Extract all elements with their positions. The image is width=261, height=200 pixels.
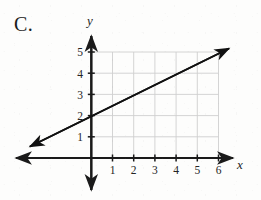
y-tick-label: 1	[77, 131, 83, 143]
x-tick-label: 3	[152, 164, 158, 176]
vertical-gridlines	[113, 52, 219, 158]
x-tick-label: 2	[131, 164, 137, 176]
y-tick-label: 3	[77, 89, 83, 101]
x-axis-label: x	[236, 157, 243, 172]
x-tick-label: 4	[173, 164, 179, 176]
y-tick-label: 4	[77, 68, 83, 80]
x-axis-tick-labels: 1 2 3 4 5 6	[110, 164, 222, 176]
x-tick-label: 6	[216, 164, 222, 176]
y-axis-tick-labels: 5 4 3 2 1	[77, 46, 83, 143]
y-axis-label: y	[85, 13, 93, 28]
graph-figure: C.	[0, 0, 261, 200]
plotted-line	[30, 49, 229, 147]
x-tick-label: 1	[110, 164, 116, 176]
coordinate-plane-svg: 1 2 3 4 5 6 5 4 3 2 1 x y	[0, 0, 261, 200]
x-tick-label: 5	[194, 164, 200, 176]
y-tick-label: 5	[77, 46, 83, 58]
choice-label: C.	[14, 14, 33, 34]
